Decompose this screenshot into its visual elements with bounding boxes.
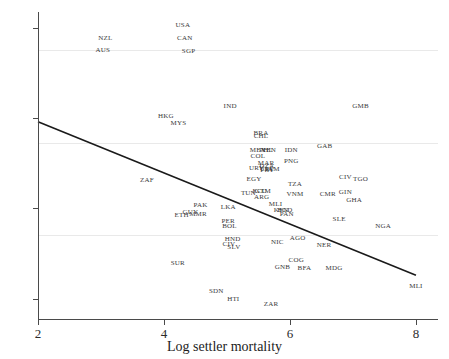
data-point-label: NGA	[375, 222, 391, 230]
data-point-label: MLI	[409, 282, 422, 290]
data-point-label: MDG	[326, 264, 343, 272]
data-point-label: SLE	[333, 215, 346, 223]
data-point-label: MMR	[189, 210, 207, 218]
x-axis-label: Log settler mortality	[0, 339, 449, 355]
data-point-label: ZAF	[140, 176, 154, 184]
y-axis-tick	[33, 28, 38, 29]
data-point-label: IND	[224, 102, 237, 110]
data-point-label: PNG	[284, 157, 299, 165]
data-point-label: EGY	[247, 175, 262, 183]
scatter-plot-figure: USANZLCANAUSSGPINDGMBHKGMYSBRACHLMEXPHLV…	[0, 0, 449, 359]
data-point-label: SDN	[209, 287, 224, 295]
y-axis-line	[38, 12, 39, 319]
x-axis-tick	[164, 320, 165, 325]
data-point-label: BFA	[298, 264, 312, 272]
data-point-label: NIC	[271, 238, 284, 246]
data-point-label: SUR	[171, 259, 185, 267]
data-point-label: BOL	[222, 222, 237, 230]
data-point-label: GIN	[339, 188, 352, 196]
data-point-label: NER	[317, 241, 332, 249]
data-point-label: AUS	[96, 46, 111, 54]
data-point-label: ARG	[254, 193, 269, 201]
data-point-label: USA	[176, 21, 191, 29]
data-point-label: CAN	[177, 34, 192, 42]
data-point-label: CHL	[254, 132, 269, 140]
x-axis-tick	[416, 320, 417, 325]
y-axis-tick	[33, 118, 38, 119]
data-point-label: MYS	[171, 119, 187, 127]
data-point-label: GHA	[346, 196, 362, 204]
data-point-label: TZA	[288, 180, 302, 188]
x-axis-line	[38, 319, 438, 320]
regression-line	[38, 12, 438, 319]
plot-area: USANZLCANAUSSGPINDGMBHKGMYSBRACHLMEXPHLV…	[38, 12, 438, 319]
data-point-label: TGO	[353, 175, 368, 183]
x-axis-tick	[290, 320, 291, 325]
data-point-label: SGP	[182, 47, 195, 55]
data-point-label: JAM	[265, 165, 280, 173]
x-axis-tick	[38, 320, 39, 325]
y-axis-tick	[33, 299, 38, 300]
data-point-label: GAB	[317, 142, 332, 150]
y-axis-tick	[33, 208, 38, 209]
data-point-label: IDN	[285, 146, 298, 154]
data-point-label: CIV	[223, 240, 236, 248]
data-point-label: NZL	[98, 34, 112, 42]
data-point-label: GMB	[352, 102, 369, 110]
data-point-label: CIV	[339, 173, 352, 181]
data-point-label: HTI	[227, 295, 239, 303]
data-point-label: CMR	[320, 190, 336, 198]
data-point-label: AGO	[290, 234, 306, 242]
data-point-label: VNM	[287, 190, 304, 198]
data-point-label: ZAR	[264, 300, 279, 308]
data-point-label: LKA	[221, 203, 236, 211]
data-point-label: PAN	[280, 210, 294, 218]
data-point-label: ETH	[175, 211, 189, 219]
